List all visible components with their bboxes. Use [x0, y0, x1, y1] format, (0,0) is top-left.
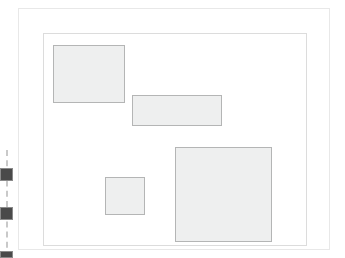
square-small-lower-left[interactable] — [105, 177, 145, 215]
rectangle-wide-center[interactable] — [132, 95, 222, 126]
guide-handle-bottom[interactable] — [0, 251, 13, 258]
layout-canvas — [0, 0, 345, 258]
rectangle-top-left[interactable] — [53, 45, 125, 103]
guide-line-dashed — [6, 150, 8, 258]
guide-handle-glyph — [1, 208, 12, 219]
guide-handle-glyph — [1, 169, 12, 180]
guide-handle-glyph — [1, 252, 12, 257]
guide-handle-middle[interactable] — [0, 207, 13, 220]
vertical-guide-rail — [0, 150, 16, 258]
square-large-lower-right[interactable] — [175, 147, 272, 242]
guide-handle-top[interactable] — [0, 168, 13, 181]
